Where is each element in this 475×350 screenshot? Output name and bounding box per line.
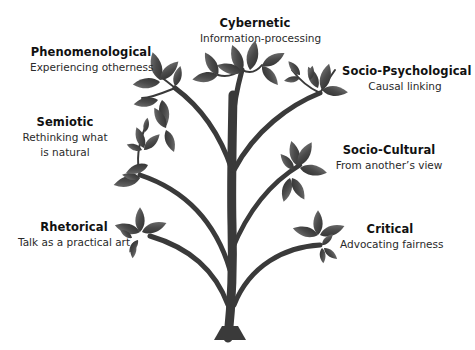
label-critical: Critical Advocating fairness [340, 222, 440, 252]
tradition-subtitle-line1: Rethinking what [20, 130, 110, 145]
branch-rhetorical [150, 236, 228, 305]
label-semiotic: Semiotic Rethinking what is natural [20, 115, 110, 160]
label-phenomenological: Phenomenological Experiencing otherness [30, 45, 152, 75]
tradition-title: Cybernetic [200, 16, 310, 31]
trunk-base [214, 326, 246, 340]
label-socio-psychological: Socio-Psychological Causal linking [342, 64, 468, 94]
tradition-title: Socio-Cultural [330, 143, 448, 158]
label-cybernetic: Cybernetic Information-processing [200, 16, 310, 46]
tradition-subtitle: Causal linking [342, 79, 468, 94]
tradition-subtitle: Advocating fairness [340, 237, 440, 252]
branch-phenomenological [175, 88, 232, 170]
tradition-subtitle: Experiencing otherness [30, 60, 152, 75]
label-rhetorical: Rhetorical Talk as a practical art [18, 220, 130, 250]
tradition-title: Semiotic [20, 115, 110, 130]
tradition-title: Phenomenological [30, 45, 152, 60]
tradition-subtitle: From another’s view [330, 158, 448, 173]
tradition-title: Rhetorical [18, 220, 130, 235]
trunk-and-branches [138, 65, 335, 340]
branch-critical [234, 245, 320, 305]
branch-socio-cultural [232, 165, 300, 250]
tradition-subtitle: Talk as a practical art [18, 235, 130, 250]
branch-cybernetic [233, 70, 242, 120]
label-socio-cultural: Socio-Cultural From another’s view [330, 143, 448, 173]
tradition-title: Critical [340, 222, 440, 237]
tradition-title: Socio-Psychological [342, 64, 468, 79]
tradition-subtitle: Information-processing [200, 31, 310, 46]
branch-semiotic [140, 175, 230, 270]
tradition-subtitle-line2: is natural [20, 145, 110, 160]
